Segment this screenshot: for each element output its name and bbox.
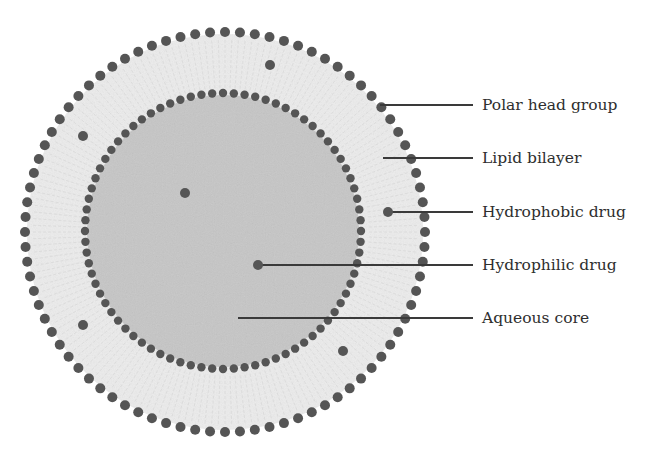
label-polar-head-group: Polar head group (482, 95, 617, 115)
liposome-diagram (0, 0, 652, 466)
label-hydrophobic-drug: Hydrophobic drug (482, 202, 626, 222)
label-aqueous-core: Aqueous core (482, 308, 589, 328)
label-lipid-bilayer: Lipid bilayer (482, 148, 581, 168)
label-hydrophilic-drug: Hydrophilic drug (482, 255, 617, 275)
